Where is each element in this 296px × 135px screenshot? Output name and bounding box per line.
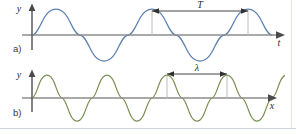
t-axis-label: t (278, 37, 281, 48)
y-axis-label-a: y (16, 3, 22, 14)
wave-figure-svg: y t T a) y x λ b) (0, 0, 296, 135)
y-axis-label-b: y (16, 69, 22, 80)
figure-frame (0, 0, 296, 129)
panel-label-a: a) (13, 43, 21, 54)
panel-a: y t T a) (13, 0, 285, 61)
wavelength-label: λ (194, 62, 200, 73)
x-axis-label: x (269, 100, 275, 111)
y-axis-arrow-icon-a (29, 4, 36, 12)
period-label: T (197, 0, 204, 10)
panel-label-b: b) (13, 107, 21, 118)
wave-figure: y t T a) y x λ b) (0, 0, 296, 135)
panel-b: y x λ b) (13, 62, 285, 121)
y-axis-arrow-icon-b (29, 70, 36, 78)
